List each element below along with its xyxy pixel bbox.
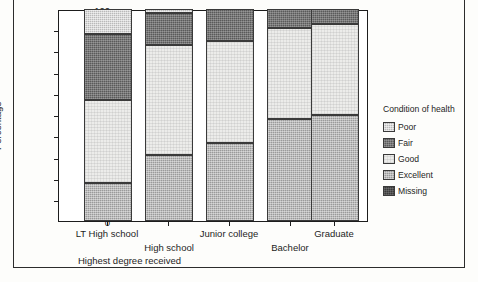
segment-fair[interactable] [267,9,315,28]
missing-swatch-icon [383,186,395,196]
segment-fair[interactable] [206,9,254,41]
segment-good[interactable] [145,45,193,155]
x-tick-mark [107,222,108,226]
segment-excellent[interactable] [311,115,359,221]
legend-item-label: Missing [398,186,427,196]
x-tick-label-lt-high-school: LT High school [62,228,152,239]
segment-excellent[interactable] [145,155,193,221]
x-tick-mark [334,222,335,226]
legend-item-poor[interactable]: Poor [383,119,463,135]
legend-item-label: Excellent [398,170,433,180]
x-tick-label-bachelor: Bachelor [252,242,328,253]
legend-item-missing[interactable]: Missing [383,183,463,199]
segment-good[interactable] [206,41,254,143]
segment-poor[interactable] [145,9,193,13]
segment-poor[interactable] [84,9,132,34]
good-swatch-icon [383,154,395,164]
legend-item-label: Poor [398,122,416,132]
bars-container [59,11,367,221]
segment-good[interactable] [267,28,315,119]
segment-excellent[interactable] [206,143,254,221]
x-tick-label-graduate: Graduate [296,228,372,239]
segment-fair[interactable] [145,13,193,45]
chart-figure: 100 90 80 70 60 50 40 30 20 10 0 Percent… [0,0,478,282]
segment-good[interactable] [84,100,132,183]
legend: Condition of health Poor Fair Good Excel… [383,104,463,199]
x-tick-label-high-school: High school [131,242,207,253]
plot-area [58,10,368,222]
y-axis-title: Percentage [0,101,3,150]
legend-title: Condition of health [383,104,463,114]
legend-item-excellent[interactable]: Excellent [383,167,463,183]
x-axis-title: Highest degree received [78,255,181,266]
legend-item-good[interactable]: Good [383,151,463,167]
x-tick-mark [229,222,230,226]
legend-item-fair[interactable]: Fair [383,135,463,151]
fair-swatch-icon [383,138,395,148]
segment-good[interactable] [311,24,359,115]
excellent-swatch-icon [383,170,395,180]
poor-swatch-icon [383,122,395,132]
segment-fair[interactable] [84,34,132,100]
segment-fair[interactable] [311,9,359,24]
segment-excellent[interactable] [84,183,132,221]
segment-excellent[interactable] [267,119,315,221]
legend-item-label: Good [398,154,419,164]
x-tick-label-junior-college: Junior college [183,228,275,239]
x-tick-mark [168,222,169,226]
x-tick-mark [290,222,291,226]
legend-item-label: Fair [398,138,413,148]
